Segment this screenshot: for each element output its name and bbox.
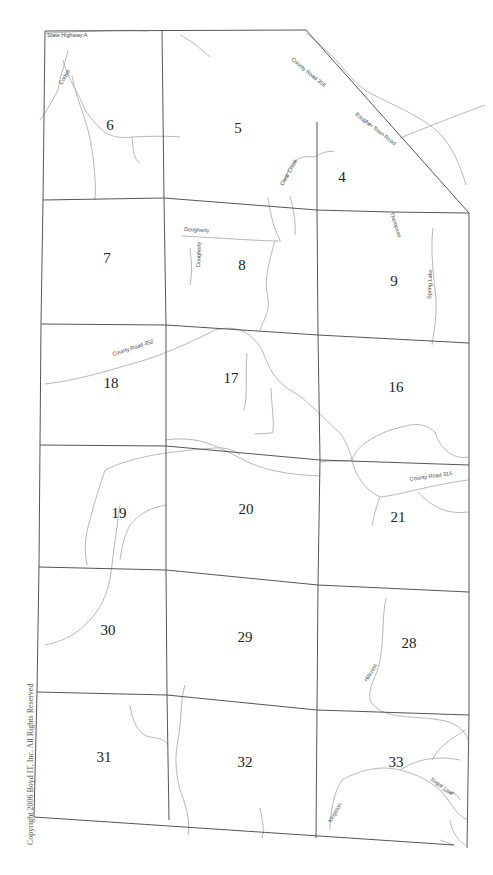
section-boundary: [390, 212, 469, 848]
road-line: [260, 808, 263, 838]
road-label: Clear Creek: [279, 158, 299, 187]
section-number: 28: [402, 635, 417, 651]
section-number: 21: [391, 509, 406, 525]
road-line: [182, 236, 281, 241]
road-line: [176, 685, 189, 835]
section-boundary: [39, 567, 469, 592]
road-label: Baugher Town Road: [354, 111, 397, 146]
road-line: [306, 33, 466, 185]
road-line: [418, 492, 468, 513]
road-line: [432, 228, 436, 345]
road-line: [85, 470, 105, 565]
road-line: [244, 353, 247, 410]
section-boundary: [40, 445, 469, 465]
roads-layer: [40, 30, 485, 845]
road-label: Dougherty: [184, 226, 210, 233]
road-line: [352, 425, 468, 460]
section-number: 8: [238, 257, 246, 273]
section-number: 9: [390, 273, 398, 289]
road-label: County Road 352: [111, 338, 154, 357]
road-label: Dougherty: [195, 241, 202, 267]
section-number: 20: [239, 501, 254, 517]
road-label: Sugar Loaf: [429, 776, 455, 797]
road-line: [268, 198, 280, 240]
road-labels: State Highway ACorbieCounty Road 306Baug…: [47, 32, 455, 824]
road-label: State Highway A: [47, 32, 88, 38]
road-line: [372, 497, 380, 525]
section-boundary: [162, 30, 169, 820]
road-label: Kingston: [327, 802, 343, 824]
township-map: State Highway ACorbieCounty Road 306Baug…: [0, 0, 493, 875]
road-line: [132, 137, 140, 163]
section-number: 33: [389, 754, 404, 770]
section-grid: [34, 30, 469, 848]
section-number: 7: [103, 250, 111, 266]
road-line: [255, 388, 273, 434]
road-line: [400, 758, 460, 770]
road-line: [450, 820, 465, 845]
road-label: County Road 306: [290, 56, 327, 88]
road-line: [130, 705, 168, 745]
section-number: 4: [338, 169, 346, 185]
section-number: 31: [97, 749, 112, 765]
section-number: 17: [224, 370, 240, 386]
section-boundary: [34, 31, 454, 845]
section-number: 5: [234, 120, 242, 136]
road-line: [330, 768, 468, 830]
section-number: 32: [238, 754, 253, 770]
road-line: [120, 505, 166, 560]
section-number: 6: [106, 117, 114, 133]
section-number: 29: [238, 629, 253, 645]
road-label: Thompson: [389, 211, 403, 238]
road-line: [180, 35, 210, 57]
section-number: 30: [101, 622, 116, 638]
section-number: 18: [104, 375, 119, 391]
road-line: [400, 105, 485, 138]
section-boundary: [37, 692, 469, 715]
road-line: [215, 328, 352, 460]
road-line: [260, 240, 275, 330]
road-line: [45, 330, 215, 384]
road-label: County Road 315: [409, 470, 452, 482]
copyright-notice: Copyright 2006 Boyd IT, Inc. All Rights …: [26, 684, 35, 845]
road-label: Spring Lake: [426, 269, 433, 299]
road-line: [370, 598, 468, 740]
road-line: [432, 730, 465, 760]
road-line: [290, 196, 295, 235]
road-line: [190, 248, 192, 285]
section-boundary: [43, 198, 390, 212]
section-number: 16: [389, 379, 405, 395]
road-line: [72, 76, 95, 200]
section-boundary: [316, 122, 320, 838]
section-number: 19: [112, 505, 127, 521]
